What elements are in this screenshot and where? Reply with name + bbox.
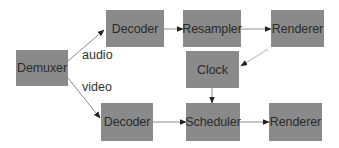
node-video-renderer: Renderer <box>269 103 322 141</box>
node-resampler-label: Resampler <box>182 22 242 36</box>
node-clock-label: Clock <box>197 63 228 77</box>
node-demuxer: Demuxer <box>16 50 68 86</box>
node-video-renderer-label: Renderer <box>270 115 321 129</box>
node-demuxer-label: Demuxer <box>17 61 67 75</box>
node-video-decoder: Decoder <box>101 103 153 141</box>
node-audio-decoder: Decoder <box>106 10 164 47</box>
edge-label-video: video <box>82 80 112 94</box>
media-pipeline-diagram: Demuxer Decoder Resampler Renderer Clock… <box>0 0 339 148</box>
node-resampler: Resampler <box>183 10 241 47</box>
node-audio-decoder-label: Decoder <box>112 22 159 36</box>
edge-audio-renderer-to-clock <box>241 49 268 66</box>
node-audio-renderer: Renderer <box>271 10 324 47</box>
node-clock: Clock <box>186 51 239 88</box>
node-audio-renderer-label: Renderer <box>272 22 323 36</box>
node-scheduler: Scheduler <box>186 103 240 141</box>
node-video-decoder-label: Decoder <box>104 115 151 129</box>
edge-label-audio: audio <box>82 48 113 62</box>
node-scheduler-label: Scheduler <box>185 115 240 129</box>
